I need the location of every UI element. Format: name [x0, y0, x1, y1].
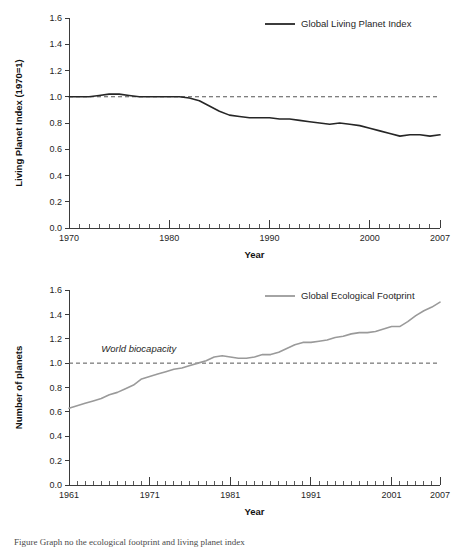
living-planet-index-chart: 0.00.20.40.60.81.01.21.41.61970198019902… — [0, 0, 456, 265]
y-axis-tick-label: 0.0 — [49, 223, 62, 233]
legend-label-global-ecological-footprint: Global Ecological Footprint — [301, 290, 415, 301]
y-axis-title: Living Planet Index (1970=1) — [13, 59, 24, 187]
x-axis-tick-label: 2000 — [360, 233, 380, 243]
y-axis-tick-label: 1.0 — [49, 358, 62, 368]
y-axis-tick-label: 1.2 — [49, 66, 62, 76]
y-axis-tick-label: 0.4 — [49, 431, 62, 441]
x-axis-tick-label: 1981 — [220, 490, 240, 500]
x-axis-tick-label: 2007 — [430, 233, 450, 243]
y-axis-tick-label: 0.6 — [49, 144, 62, 154]
y-axis-tick-label: 0.2 — [49, 456, 62, 466]
figure-caption: Figure Graph no the ecological footprint… — [14, 536, 454, 549]
series-line-living-planet-index — [69, 94, 440, 136]
y-axis-tick-label: 1.4 — [49, 39, 62, 49]
y-axis-tick-label: 0.0 — [49, 480, 62, 490]
y-axis-tick-label: 1.4 — [49, 310, 62, 320]
x-axis-title: Year — [244, 249, 264, 260]
y-axis-tick-label: 1.2 — [49, 334, 62, 344]
global-ecological-footprint-chart: 0.00.20.40.60.81.01.21.41.61961197119811… — [0, 272, 456, 522]
axis-spines — [69, 290, 440, 485]
living-planet-index-plot: 0.00.20.40.60.81.01.21.41.61970198019902… — [0, 0, 456, 265]
x-axis-tick-label: 1980 — [159, 233, 179, 243]
figure-container: 0.00.20.40.60.81.01.21.41.61970198019902… — [0, 0, 456, 549]
x-axis-tick-label: 2001 — [382, 490, 402, 500]
x-axis-tick-label: 2007 — [430, 490, 450, 500]
y-axis-tick-label: 1.6 — [49, 285, 62, 295]
series-line-global-ecological-footprint — [69, 302, 440, 408]
y-axis-tick-label: 0.4 — [49, 171, 62, 181]
x-axis-tick-label: 1990 — [260, 233, 280, 243]
y-axis-tick-label: 1.6 — [49, 13, 62, 23]
y-axis-tick-label: 0.8 — [49, 383, 62, 393]
x-axis-tick-label: 1961 — [59, 490, 79, 500]
global-ecological-footprint-plot: 0.00.20.40.60.81.01.21.41.61961197119811… — [0, 272, 456, 522]
y-axis-tick-label: 0.8 — [49, 118, 62, 128]
y-axis-tick-label: 0.2 — [49, 197, 62, 207]
x-axis-tick-label: 1991 — [301, 490, 321, 500]
y-axis-tick-label: 1.0 — [49, 92, 62, 102]
axis-spines — [69, 18, 440, 228]
x-axis-tick-label: 1971 — [140, 490, 160, 500]
y-axis-tick-label: 0.6 — [49, 407, 62, 417]
x-axis-tick-label: 1970 — [59, 233, 79, 243]
x-axis-title: Year — [244, 506, 264, 517]
annotation-world-biocapacity: World biocapacity — [101, 343, 177, 354]
legend-label-living-planet-index: Global Living Planet Index — [301, 18, 412, 29]
y-axis-title: Number of planets — [13, 346, 24, 429]
